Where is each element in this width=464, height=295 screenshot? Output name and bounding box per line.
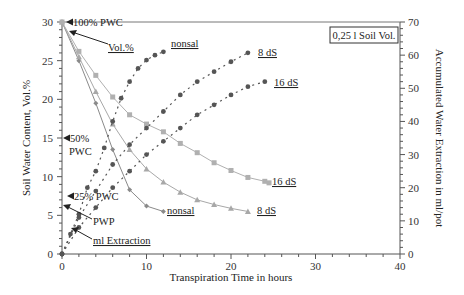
- data-point-marker: [195, 79, 200, 84]
- data-point-marker: [93, 89, 99, 95]
- data-point-marker: [93, 169, 98, 174]
- label-nonsal-ml: nonsal: [171, 38, 198, 49]
- data-point-marker: [161, 129, 166, 134]
- y2-tick-label: 40: [408, 115, 420, 127]
- y-tick-label: 5: [48, 209, 54, 221]
- data-point-marker: [194, 197, 200, 203]
- data-point-marker: [245, 175, 250, 180]
- x-tick-label: 10: [141, 260, 153, 272]
- data-point-marker: [229, 93, 234, 98]
- data-point-marker: [161, 209, 166, 214]
- data-point-marker: [246, 84, 251, 89]
- y2-tick-label: 30: [408, 149, 420, 161]
- y-tick-label: 25: [42, 55, 54, 67]
- y-tick-label: 10: [42, 171, 54, 183]
- data-point-marker: [127, 142, 132, 147]
- pwc50-label-1: 50%: [70, 133, 90, 144]
- data-point-marker: [127, 79, 132, 84]
- data-point-marker: [68, 232, 73, 237]
- data-point-marker: [195, 150, 200, 155]
- data-point-marker: [212, 69, 217, 74]
- pwc50-label-2: PWC: [69, 146, 92, 157]
- y2-tick-label: 0: [408, 248, 414, 260]
- ml-extraction-label: ml Extraction: [93, 235, 151, 246]
- series: [59, 19, 272, 256]
- data-point-marker: [127, 169, 132, 174]
- data-point-marker: [161, 139, 166, 144]
- pwp-arrow-icon: [63, 204, 71, 210]
- data-point-marker: [60, 20, 65, 25]
- water-content-chart: 010203040051015202530010203040506070 Tra…: [0, 0, 464, 295]
- series-line: [62, 82, 265, 254]
- data-point-marker: [110, 119, 115, 124]
- data-point-marker: [77, 215, 82, 220]
- x-axis-title: Transpiration Time in hours: [170, 271, 293, 283]
- label-16ds-ml: 16 dS: [274, 77, 298, 88]
- series-line: [62, 22, 269, 183]
- data-point-marker: [102, 146, 107, 151]
- y-tick-label: 30: [42, 16, 54, 28]
- soil-volume-label: 0,25 l Soil Vol.: [333, 30, 396, 41]
- y-tick-label: 20: [42, 93, 54, 105]
- data-point-marker: [161, 109, 166, 114]
- data-point-marker: [177, 189, 183, 195]
- data-point-marker: [267, 180, 272, 185]
- y2-tick-label: 20: [408, 182, 420, 194]
- pwc25-arrow-icon: [67, 193, 74, 200]
- y2-tick-label: 10: [408, 215, 420, 227]
- y-tick-label: 0: [48, 248, 54, 260]
- label-nonsal-vol: nonsal: [167, 205, 194, 216]
- vol-label: Vol.%: [108, 42, 134, 53]
- data-point-marker: [178, 141, 183, 146]
- pwc25-label: 25% PWC: [74, 191, 119, 202]
- series-labels: nonsal 8 dS 16 dS 16 dS 8 dS nonsal: [167, 38, 298, 216]
- data-point-marker: [93, 205, 98, 210]
- data-point-marker: [229, 59, 234, 64]
- data-point-marker: [262, 79, 267, 84]
- y2-tick-label: 50: [408, 82, 420, 94]
- data-point-marker: [119, 96, 124, 101]
- data-point-marker: [178, 126, 183, 131]
- label-8ds-vol: 8 dS: [257, 205, 276, 216]
- data-point-marker: [110, 95, 115, 100]
- series-line: [62, 22, 248, 211]
- x-tick-label: 0: [59, 260, 65, 272]
- data-point-marker: [195, 112, 200, 117]
- pwc50-arrow-icon: [63, 135, 70, 142]
- data-point-marker: [144, 152, 149, 157]
- data-point-marker: [136, 66, 141, 71]
- label-16ds-vol: 16 dS: [272, 176, 296, 187]
- data-point-marker: [144, 58, 149, 63]
- data-point-marker: [110, 147, 115, 152]
- y-axis-title: Soil Water Content, Vol.%: [20, 80, 32, 196]
- data-point-marker: [178, 93, 183, 98]
- data-point-marker: [110, 162, 115, 167]
- data-point-marker: [212, 102, 217, 107]
- y-tick-label: 15: [42, 132, 54, 144]
- data-point-marker: [60, 252, 65, 257]
- data-point-marker: [93, 101, 98, 106]
- pwp-label: PWP: [93, 216, 115, 227]
- y2-tick-label: 70: [408, 16, 420, 28]
- pwc100-arrow-icon: [66, 19, 73, 26]
- data-point-marker: [212, 160, 217, 165]
- data-point-marker: [246, 50, 251, 55]
- y2-axis-title: Accumulated Water Extraction in ml/pot: [434, 49, 446, 228]
- x-tick-label: 30: [310, 260, 322, 272]
- pwc100-label: 100% PWC: [73, 17, 123, 28]
- vol-arrow-line: [72, 32, 108, 44]
- x-tick-label: 40: [395, 260, 407, 272]
- data-point-marker: [85, 185, 90, 190]
- tick-labels: 010203040051015202530010203040506070: [42, 16, 420, 272]
- data-point-marker: [153, 53, 158, 58]
- data-point-marker: [161, 49, 166, 54]
- data-point-marker: [76, 49, 81, 54]
- data-point-marker: [127, 147, 133, 153]
- data-point-marker: [110, 185, 115, 190]
- data-point-marker: [127, 112, 132, 117]
- label-8ds-ml: 8 dS: [258, 47, 277, 58]
- data-point-marker: [229, 168, 234, 173]
- data-point-marker: [93, 73, 98, 78]
- data-point-marker: [144, 126, 149, 131]
- y2-tick-label: 60: [408, 49, 420, 61]
